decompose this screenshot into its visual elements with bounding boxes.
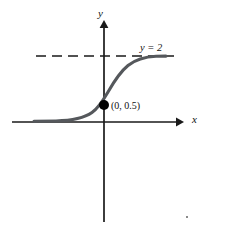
x-axis-label: x xyxy=(192,114,197,125)
graph-figure: y x y = 2 (0, 0.5) xyxy=(0,0,225,234)
page-speck xyxy=(186,216,188,218)
y-axis-label: y xyxy=(98,8,103,19)
asymptote-label: y = 2 xyxy=(140,43,162,54)
point-coordinate-label: (0, 0.5) xyxy=(111,101,140,111)
y-axis xyxy=(100,20,109,222)
point-marker xyxy=(99,100,109,110)
sigmoid-curve xyxy=(34,56,166,121)
